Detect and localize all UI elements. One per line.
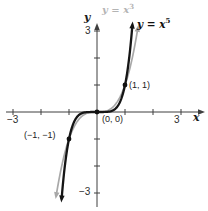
graph-figure: y = x3 y = x5 y x 3 −3 −3 3 (1, 1) (0, 0… — [0, 0, 208, 211]
curve-label-x3-exponent: 3 — [129, 2, 134, 11]
x-tick-label-neg3: −3 — [7, 115, 18, 125]
curve-label-x5-exponent: 5 — [165, 16, 170, 25]
x-tick-label-3: 3 — [174, 115, 180, 125]
point-dot — [67, 137, 72, 142]
point-label-neg1-neg1: (−1, −1) — [24, 131, 56, 140]
y-tick-label-3: 3 — [85, 26, 91, 36]
curve-arrow-bottom — [59, 195, 64, 202]
y-axis-arrow — [94, 23, 99, 30]
x-axis-label: x — [193, 112, 200, 123]
point-dot — [123, 83, 128, 88]
plot-canvas — [0, 0, 208, 211]
y-axis-label: y — [84, 12, 90, 23]
curve-arrow-bottom — [54, 192, 59, 199]
point-label-1-1: (1, 1) — [129, 81, 150, 90]
curve-label-x3: y = x3 — [102, 3, 134, 15]
y-tick-label-neg3: −3 — [79, 187, 90, 197]
point-dot — [95, 110, 100, 115]
point-label-0-0: (0, 0) — [102, 115, 123, 124]
curve-label-x5: y = x5 — [137, 17, 170, 29]
curve-arrow-top — [129, 22, 134, 29]
curve-label-x5-base: y = x — [137, 18, 165, 30]
curve-label-x3-base: y = x — [102, 4, 129, 15]
